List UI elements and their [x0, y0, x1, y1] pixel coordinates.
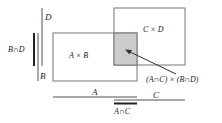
label-a: A: [91, 87, 98, 97]
label-c: C: [153, 90, 160, 100]
label-b: B: [40, 71, 46, 81]
cartesian-product-diagram: D B B∩D A × B C × D (A∩C) × (B∩D) A C A∩…: [0, 0, 222, 123]
label-a-times-b: A × B: [68, 51, 88, 60]
label-d: D: [44, 12, 52, 22]
label-intersection-product: (A∩C) × (B∩D): [146, 75, 199, 84]
label-b-cap-d: B∩D: [8, 45, 25, 54]
label-c-times-d: C × D: [143, 25, 164, 34]
intersection-region: [114, 33, 137, 65]
label-a-cap-c: A∩C: [113, 107, 131, 116]
